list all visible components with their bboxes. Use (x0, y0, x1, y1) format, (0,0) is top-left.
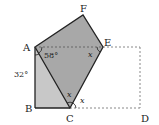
angle-32-label: 32° (14, 70, 28, 79)
label-a: A (22, 42, 31, 53)
angle-x-e-label: x (88, 50, 93, 59)
label-d: D (141, 113, 149, 124)
angle-58-label: 58° (44, 51, 58, 60)
label-f: F (80, 3, 87, 14)
label-c: C (66, 113, 74, 124)
label-e: E (104, 37, 111, 48)
label-b: B (25, 103, 32, 114)
geometry-diagram: F A E B C D 58° 32° x x x (0, 0, 159, 125)
angle-x-c-inner-label: x (67, 90, 72, 99)
angle-x-c-outer-label: x (80, 96, 85, 105)
